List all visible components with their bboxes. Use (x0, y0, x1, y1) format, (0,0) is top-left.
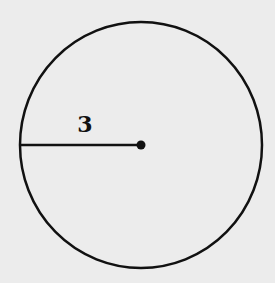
radius-label: 3 (77, 111, 92, 137)
circle-diagram: 3 (0, 0, 275, 283)
center-point (137, 141, 146, 150)
background (0, 0, 275, 283)
